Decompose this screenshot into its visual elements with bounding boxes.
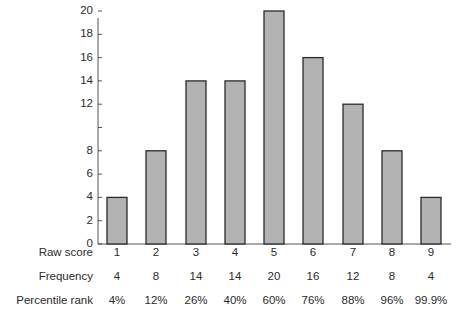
table-cell: 12 xyxy=(333,270,373,282)
table-row-label: Frequency xyxy=(39,270,93,282)
bar xyxy=(421,197,441,244)
table-cell: 4 xyxy=(97,270,137,282)
y-tick-label: 4 xyxy=(87,190,93,202)
table-cell: 1 xyxy=(97,246,137,258)
table-cell: 40% xyxy=(215,294,255,306)
table-cell: 76% xyxy=(293,294,333,306)
table-cell: 99.9% xyxy=(411,294,451,306)
y-tick-label: 18 xyxy=(80,27,93,39)
bar-chart xyxy=(0,0,465,313)
table-cell: 7 xyxy=(333,246,373,258)
table-cell: 8 xyxy=(372,246,412,258)
bar xyxy=(382,151,402,244)
bar xyxy=(146,151,166,244)
table-cell: 2 xyxy=(136,246,176,258)
bar xyxy=(264,11,284,244)
y-tick-label: 20 xyxy=(80,4,93,16)
y-tick-label: 14 xyxy=(80,74,93,86)
bar xyxy=(107,197,127,244)
table-cell: 14 xyxy=(176,270,216,282)
table-cell: 14 xyxy=(215,270,255,282)
table-cell: 16 xyxy=(293,270,333,282)
y-tick-label: 12 xyxy=(80,97,93,109)
y-tick-label: 2 xyxy=(87,214,93,226)
table-cell: 9 xyxy=(411,246,451,258)
table-cell: 20 xyxy=(254,270,294,282)
bar xyxy=(343,104,363,244)
table-cell: 4 xyxy=(215,246,255,258)
y-tick-label: 8 xyxy=(87,144,93,156)
table-cell: 8 xyxy=(136,270,176,282)
y-tick-label: 16 xyxy=(80,51,93,63)
table-row-label: Raw score xyxy=(39,246,93,258)
table-cell: 3 xyxy=(176,246,216,258)
table-cell: 60% xyxy=(254,294,294,306)
table-cell: 5 xyxy=(254,246,294,258)
table-cell: 12% xyxy=(136,294,176,306)
table-cell: 4% xyxy=(97,294,137,306)
bar xyxy=(186,81,206,244)
y-tick-label: 6 xyxy=(87,167,93,179)
table-cell: 96% xyxy=(372,294,412,306)
table-cell: 4 xyxy=(411,270,451,282)
table-cell: 26% xyxy=(176,294,216,306)
table-cell: 6 xyxy=(293,246,333,258)
bar xyxy=(225,81,245,244)
table-row-label: Percentile rank xyxy=(16,294,93,306)
table-cell: 8 xyxy=(372,270,412,282)
table-cell: 88% xyxy=(333,294,373,306)
bar xyxy=(303,58,323,244)
